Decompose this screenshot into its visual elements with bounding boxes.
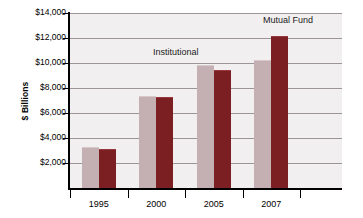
y-tick-label: $6,000 <box>10 107 66 117</box>
bar-2007-mutual-fund <box>271 36 288 188</box>
gridline <box>70 13 342 14</box>
series-label-institutional: Institutional <box>153 47 199 57</box>
x-tick-label-2005: 2005 <box>184 199 244 209</box>
y-tick-mark <box>63 138 70 139</box>
x-tick-mark <box>300 190 301 198</box>
bar-2007-institutional <box>254 60 271 189</box>
bar-1995-mutual-fund <box>99 149 116 188</box>
y-tick-label: $2,000 <box>10 157 66 167</box>
x-tick-mark <box>185 190 186 198</box>
x-tick-mark <box>243 190 244 198</box>
y-tick-label: $14,000 <box>10 7 66 17</box>
y-tick-label: $12,000 <box>10 32 66 42</box>
y-tick-label: $4,000 <box>10 132 66 142</box>
y-tick-mark <box>63 38 70 39</box>
bar-1995-institutional <box>82 147 99 188</box>
y-tick-mark <box>63 163 70 164</box>
x-tick-label-2007: 2007 <box>241 199 301 209</box>
gridline <box>70 38 342 39</box>
y-tick-mark <box>63 88 70 89</box>
bar-2000-institutional <box>139 96 156 188</box>
y-tick-label: $10,000 <box>10 57 66 67</box>
x-tick-mark <box>128 190 129 198</box>
bar-chart: $ Billions $2,000$4,000$6,000$8,000$10,0… <box>0 0 363 218</box>
gridline <box>70 63 342 64</box>
x-tick-label-2000: 2000 <box>126 199 186 209</box>
y-tick-label: $8,000 <box>10 82 66 92</box>
y-tick-mark <box>63 113 70 114</box>
y-tick-mark <box>63 13 70 14</box>
bar-2005-institutional <box>197 65 214 188</box>
x-tick-label-1995: 1995 <box>69 199 129 209</box>
bar-2005-mutual-fund <box>214 70 231 189</box>
bar-2000-mutual-fund <box>156 97 173 188</box>
y-tick-mark <box>63 63 70 64</box>
series-label-mutual-fund: Mutual Fund <box>263 15 313 25</box>
x-tick-mark <box>70 190 71 198</box>
